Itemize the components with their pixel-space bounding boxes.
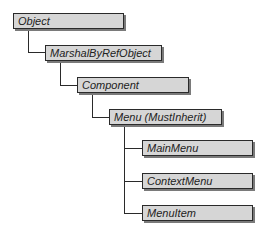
node-label: MenuItem (147, 207, 196, 219)
connector-menu-menuitem-h (124, 213, 142, 214)
connector-component-menu-h (92, 117, 109, 118)
node-menuitem: MenuItem (142, 205, 253, 221)
connector-component-menu-v (92, 93, 93, 117)
node-label: Menu (MustInherit) (114, 111, 206, 123)
connector-marshal-component-h (60, 85, 77, 86)
node-label: MarshalByRefObject (50, 47, 151, 59)
node-component: Component (77, 77, 189, 93)
node-contextmenu: ContextMenu (142, 173, 253, 189)
connector-menu-children-v (124, 125, 125, 214)
connector-marshal-component-v (60, 61, 61, 85)
node-label: Object (18, 15, 50, 27)
connector-object-marshal-h (28, 52, 45, 53)
node-label: ContextMenu (147, 175, 212, 187)
node-marshalbyrefobject: MarshalByRefObject (45, 45, 162, 61)
connector-menu-mainmenu-h (124, 148, 142, 149)
node-object: Object (13, 13, 124, 29)
node-menu: Menu (MustInherit) (109, 109, 222, 125)
node-label: Component (82, 79, 139, 91)
node-label: MainMenu (147, 142, 198, 154)
node-mainmenu: MainMenu (142, 140, 253, 156)
connector-object-marshal-v (28, 29, 29, 52)
connector-menu-contextmenu-h (124, 181, 142, 182)
